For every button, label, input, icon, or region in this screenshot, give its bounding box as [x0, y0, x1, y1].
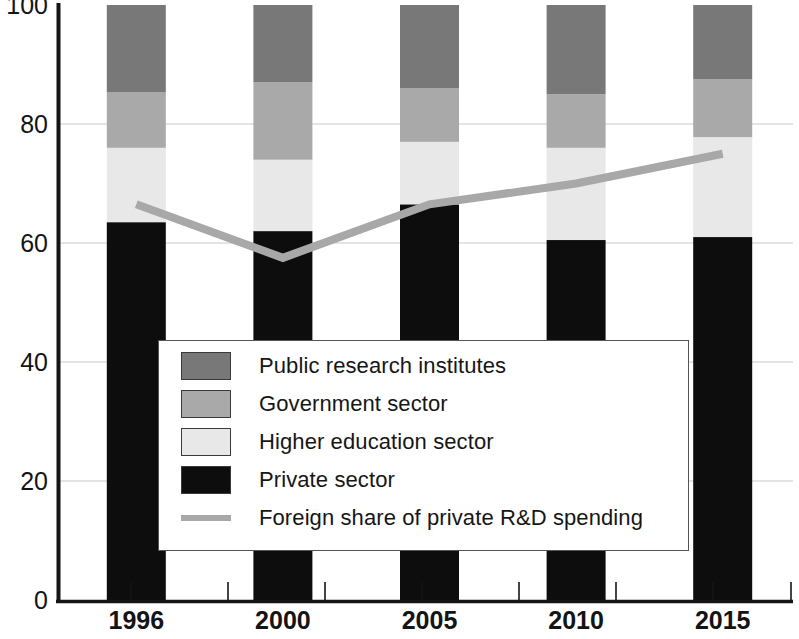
- x-tick-label: 2005: [402, 606, 458, 634]
- legend-color-swatch: [181, 428, 231, 456]
- bar-segment: [547, 94, 606, 148]
- bar-segment: [107, 222, 166, 600]
- bar-segment: [693, 79, 752, 137]
- bar-segment: [693, 237, 752, 600]
- legend-color-swatch: [181, 466, 231, 494]
- bar-segment: [547, 5, 606, 94]
- y-tick-label: 0: [34, 586, 48, 614]
- legend-item[interactable]: Public research institutes: [159, 347, 688, 385]
- x-tick-label: 2015: [695, 606, 751, 634]
- y-tick-label: 40: [20, 348, 48, 376]
- bar-segment: [693, 5, 752, 79]
- legend-item-list: Public research institutesGovernment sec…: [159, 341, 688, 550]
- y-tick-label: 80: [20, 110, 48, 138]
- bar-segment: [400, 142, 459, 204]
- x-tick-label: 2010: [548, 606, 604, 634]
- bar-segment: [253, 5, 312, 82]
- y-axis-tick-labels: 100806040200: [6, 0, 48, 614]
- legend-item[interactable]: Private sector: [159, 461, 688, 499]
- legend-item-label: Public research institutes: [259, 353, 506, 379]
- bar-segment: [400, 88, 459, 142]
- bar-segment: [253, 160, 312, 231]
- bar-segment: [107, 92, 166, 147]
- legend-item-label: Foreign share of private R&D spending: [259, 505, 643, 531]
- x-tick-label: 1996: [108, 606, 164, 634]
- y-tick-label: 60: [20, 229, 48, 257]
- legend-item-label: Private sector: [259, 467, 395, 493]
- bar-segment: [107, 5, 166, 92]
- bar-segment: [547, 148, 606, 240]
- stacked-bar-chart: 100806040200 19962000200520102015 Public…: [0, 0, 799, 639]
- bar-segment: [253, 82, 312, 159]
- legend-item-label: Government sector: [259, 391, 448, 417]
- legend-color-swatch: [181, 352, 231, 380]
- legend-item[interactable]: Foreign share of private R&D spending: [159, 499, 688, 537]
- legend-line-marker: [181, 515, 231, 521]
- x-axis-tick-labels: 19962000200520102015: [108, 606, 750, 634]
- legend-item-label: Higher education sector: [259, 429, 494, 455]
- bar-segment: [693, 137, 752, 237]
- bar-segment: [400, 5, 459, 88]
- chart-legend: Public research institutesGovernment sec…: [158, 340, 689, 551]
- x-tick-label: 2000: [255, 606, 311, 634]
- legend-item[interactable]: Government sector: [159, 385, 688, 423]
- legend-color-swatch: [181, 390, 231, 418]
- y-tick-label: 100: [6, 0, 48, 19]
- y-tick-label: 20: [20, 467, 48, 495]
- legend-item[interactable]: Higher education sector: [159, 423, 688, 461]
